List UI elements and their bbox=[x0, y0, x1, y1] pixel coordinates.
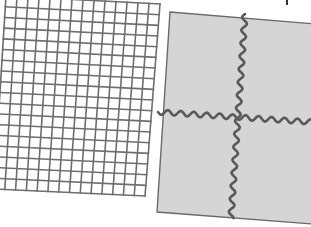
grid-horizontal-line bbox=[0, 125, 150, 132]
top-right-mark bbox=[286, 0, 288, 5]
grid-horizontal-line bbox=[0, 135, 149, 142]
grid-paper-panel bbox=[0, 0, 160, 196]
figure-canvas bbox=[0, 0, 311, 227]
cut-sheet-panel bbox=[157, 12, 311, 224]
grid-vertical-line bbox=[26, 0, 39, 191]
